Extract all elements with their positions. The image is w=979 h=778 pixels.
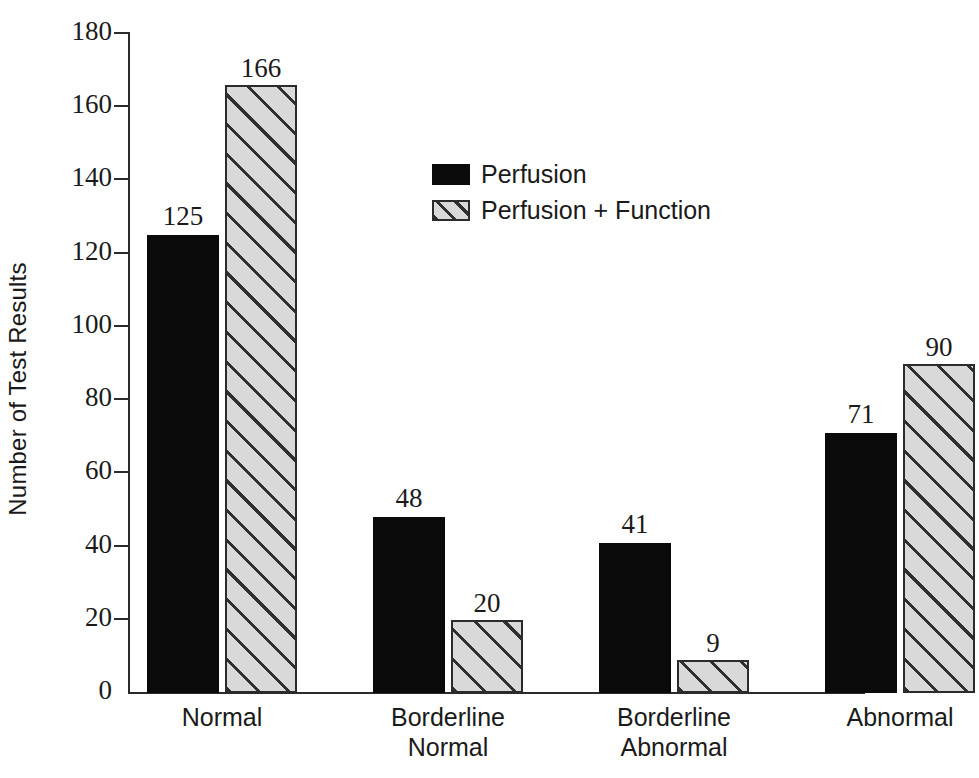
y-tick-label: 40 bbox=[52, 531, 112, 558]
bar-value-label: 71 bbox=[848, 401, 875, 428]
bar-value-label: 90 bbox=[926, 334, 953, 361]
bar-value-label: 41 bbox=[622, 511, 649, 538]
bar: 9 bbox=[677, 660, 749, 693]
y-axis-title: Number of Test Results bbox=[0, 0, 36, 778]
bar: 166 bbox=[225, 85, 297, 693]
y-tick-mark bbox=[114, 545, 129, 547]
bar-value-label: 20 bbox=[474, 590, 501, 617]
solid-swatch-icon bbox=[432, 164, 470, 185]
y-tick-mark bbox=[114, 178, 129, 180]
legend-label-perfusion-function: Perfusion + Function bbox=[481, 198, 711, 223]
chart-legend: Perfusion Perfusion + Function bbox=[432, 158, 711, 230]
bar-value-label: 125 bbox=[163, 203, 204, 230]
category-label: Abnormal bbox=[795, 703, 979, 733]
y-tick-mark bbox=[114, 618, 129, 620]
bar: 41 bbox=[599, 543, 671, 693]
bar: 125 bbox=[147, 235, 219, 693]
y-tick-mark bbox=[114, 252, 129, 254]
category-label: Normal bbox=[117, 703, 327, 733]
y-axis-line bbox=[128, 32, 130, 694]
legend-item-perfusion-function: Perfusion + Function bbox=[432, 194, 711, 226]
bar: 48 bbox=[373, 517, 445, 693]
bar-value-label: 166 bbox=[241, 55, 282, 82]
y-tick-label: 20 bbox=[52, 604, 112, 631]
bar: 90 bbox=[903, 364, 975, 694]
y-tick-mark bbox=[114, 398, 129, 400]
y-tick-label: 120 bbox=[52, 238, 112, 265]
y-tick-mark bbox=[114, 32, 129, 34]
y-tick-label: 160 bbox=[52, 91, 112, 118]
y-tick-label: 0 bbox=[52, 677, 112, 704]
y-tick-mark bbox=[114, 325, 129, 327]
legend-label-perfusion: Perfusion bbox=[481, 162, 587, 187]
category-label: Borderline Abnormal bbox=[569, 703, 779, 762]
y-tick-label: 140 bbox=[52, 164, 112, 191]
category-label: Borderline Normal bbox=[343, 703, 553, 762]
y-tick-mark bbox=[114, 471, 129, 473]
y-tick-label: 100 bbox=[52, 311, 112, 338]
y-tick-label: 180 bbox=[52, 18, 112, 45]
hatched-swatch-icon bbox=[432, 200, 470, 221]
bar-value-label: 9 bbox=[706, 630, 720, 657]
y-tick-label: 60 bbox=[52, 457, 112, 484]
y-tick-mark bbox=[114, 105, 129, 107]
bar: 71 bbox=[825, 433, 897, 693]
bar: 20 bbox=[451, 620, 523, 693]
legend-item-perfusion: Perfusion bbox=[432, 158, 711, 190]
y-tick-label: 80 bbox=[52, 384, 112, 411]
bar-value-label: 48 bbox=[396, 485, 423, 512]
